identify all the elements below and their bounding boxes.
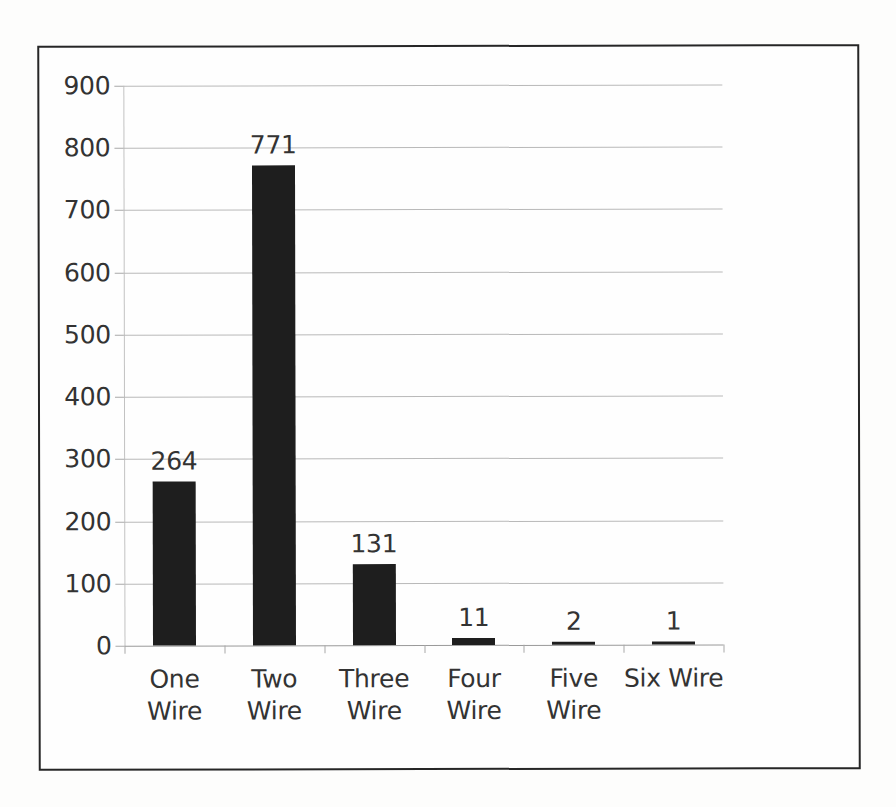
x-axis-label: ThreeWire — [324, 663, 424, 727]
x-axis-label-line: Three — [324, 663, 424, 695]
x-axis-label: FiveWire — [524, 663, 624, 727]
x-axis-label: Six Wire — [624, 662, 724, 694]
y-axis-label: 200 — [64, 507, 111, 536]
bar-value-label: 1 — [666, 606, 682, 635]
bar-slot: 11 — [423, 85, 524, 645]
bar-value-label: 264 — [151, 446, 198, 475]
y-tick-900 — [114, 86, 123, 87]
y-axis-label: 400 — [64, 382, 111, 411]
x-tick-5 — [624, 645, 625, 653]
x-tick-1 — [224, 645, 225, 653]
bar-value-label: 131 — [350, 529, 397, 558]
plot-area: 9008007006005004003002001000 26477113111… — [123, 84, 723, 645]
x-tick-6 — [723, 644, 724, 652]
y-tick-300 — [115, 459, 124, 460]
y-tick-600 — [115, 272, 124, 273]
y-tick-0 — [115, 646, 124, 647]
y-axis-label: 700 — [64, 196, 111, 225]
bar[interactable] — [153, 481, 196, 645]
x-tick-2 — [324, 645, 325, 653]
y-axis-label: 0 — [96, 631, 112, 660]
y-axis-label: 800 — [64, 133, 111, 162]
bar-value-label: 771 — [250, 131, 297, 160]
bar-slot: 771 — [223, 85, 324, 645]
bar-slot: 131 — [323, 85, 424, 645]
bar[interactable] — [252, 166, 296, 646]
bar-slot: 2 — [523, 85, 624, 645]
y-axis-label: 600 — [64, 258, 111, 287]
bar-slot: 264 — [123, 85, 224, 645]
scanned-page-background: 9008007006005004003002001000 26477113111… — [0, 0, 896, 807]
x-axis-label-line: Five — [524, 663, 624, 695]
x-axis-label: FourWire — [424, 663, 524, 727]
x-tick-3 — [424, 645, 425, 653]
y-tick-700 — [115, 210, 124, 211]
x-axis-label-line: Four — [424, 663, 524, 695]
y-axis-label: 900 — [63, 71, 110, 100]
y-tick-100 — [115, 583, 124, 584]
y-axis-label: 500 — [64, 320, 111, 349]
y-tick-200 — [115, 521, 124, 522]
bar[interactable] — [352, 564, 395, 646]
x-axis-label-line: Wire — [524, 695, 624, 727]
y-axis-label: 300 — [64, 445, 111, 474]
x-axis-label-line: Wire — [424, 695, 524, 727]
y-tick-400 — [115, 397, 124, 398]
x-axis-label-line: Wire — [324, 695, 424, 727]
bar[interactable] — [552, 641, 595, 645]
bar[interactable] — [452, 638, 495, 645]
x-axis-label: Two Wire — [224, 663, 324, 727]
bar[interactable] — [652, 641, 695, 645]
bar-value-label: 11 — [458, 603, 489, 632]
x-axis-label: One Wire — [125, 663, 225, 727]
bar-value-label: 2 — [566, 606, 582, 635]
y-tick-800 — [114, 148, 123, 149]
x-tick-0 — [124, 646, 125, 654]
y-tick-500 — [115, 335, 124, 336]
bar-slot: 1 — [622, 84, 723, 644]
y-axis-label: 100 — [65, 569, 112, 598]
x-tick-4 — [524, 645, 525, 653]
bars-group: 2647711311121 — [123, 84, 722, 85]
chart-frame: 9008007006005004003002001000 26477113111… — [37, 44, 861, 771]
